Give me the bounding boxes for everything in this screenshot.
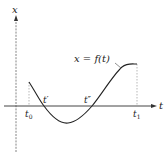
function-graph: x t x = f(t) t0 t′ t″ t1 <box>0 0 166 156</box>
t-double-prime-label: t″ <box>84 95 92 105</box>
t-axis-arrow-icon <box>151 104 157 108</box>
curve-f <box>29 64 137 123</box>
curve-label-leader <box>115 63 121 68</box>
t1-label: t1 <box>133 109 140 120</box>
y-axis-arrow-icon <box>14 15 18 21</box>
t0-label: t0 <box>25 109 33 120</box>
curve-label: x = f(t) <box>74 53 110 64</box>
t-prime-label: t′ <box>43 95 49 105</box>
y-axis-label: x <box>12 4 18 15</box>
t-axis-label: t <box>159 100 164 111</box>
